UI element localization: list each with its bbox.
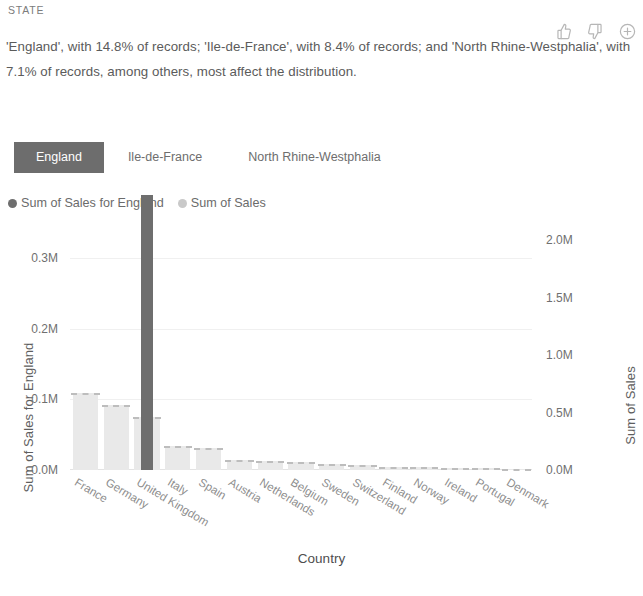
y-tick-right: 0.0M: [546, 463, 573, 477]
x-tick-slot: Austria: [224, 472, 255, 542]
bar-sum-of-sales[interactable]: [412, 467, 437, 470]
x-axis-tick-labels: FranceGermanyUnited KingdomItalySpainAus…: [70, 472, 532, 542]
tab-england[interactable]: England: [14, 142, 104, 173]
legend-swatch-back: [178, 199, 187, 208]
insight-summary-text: 'England', with 14.8% of records; 'Ile-d…: [6, 34, 634, 84]
x-tick-slot: Finland: [378, 472, 409, 542]
bar-sum-of-sales[interactable]: [73, 393, 98, 470]
y-tick-left: 0.3M: [31, 251, 58, 265]
bar-sum-of-sales[interactable]: [504, 469, 529, 470]
state-tab-list: England Ile-de-France North Rhine-Westph…: [14, 142, 403, 173]
bar-slot[interactable]: [101, 223, 132, 470]
x-tick-slot: Denmark: [501, 472, 532, 542]
bar-sum-of-sales[interactable]: [319, 464, 344, 470]
x-tick-slot: Italy: [162, 472, 193, 542]
bar-slot[interactable]: [132, 223, 163, 470]
bar-series-group: [70, 223, 532, 470]
legend-swatch-front: [8, 199, 17, 208]
bar-slot[interactable]: [193, 223, 224, 470]
legend-item-sum-of-sales[interactable]: Sum of Sales: [178, 196, 266, 210]
combo-chart: Sum of Sales for England Sum of Sales Co…: [0, 218, 643, 596]
y-axis-title-right: Sum of Sales: [623, 311, 638, 501]
bar-slot[interactable]: [224, 223, 255, 470]
x-tick-slot: Belgium: [286, 472, 317, 542]
chart-legend: Sum of Sales for England Sum of Sales: [8, 196, 266, 210]
y-tick-right: 0.5M: [546, 406, 573, 420]
bar-slot[interactable]: [470, 223, 501, 470]
x-tick-slot: Sweden: [316, 472, 347, 542]
y-axis-title-left: Sum of Sales for England: [21, 318, 36, 518]
bar-sum-of-sales-for-england[interactable]: [141, 195, 153, 470]
x-tick-slot: Germany: [101, 472, 132, 542]
y-tick-left: 0.0M: [31, 463, 58, 477]
bar-sum-of-sales[interactable]: [473, 468, 498, 470]
bar-sum-of-sales[interactable]: [104, 405, 129, 470]
bar-sum-of-sales[interactable]: [165, 446, 190, 470]
bar-slot[interactable]: [440, 223, 471, 470]
bar-slot[interactable]: [286, 223, 317, 470]
x-tick-slot: Norway: [409, 472, 440, 542]
bar-sum-of-sales[interactable]: [196, 448, 221, 470]
bar-slot[interactable]: [316, 223, 347, 470]
x-tick-slot: United Kingdom: [132, 472, 163, 542]
x-axis-title: Country: [0, 551, 643, 566]
x-tick-label: Denmark: [504, 476, 550, 510]
bar-slot[interactable]: [409, 223, 440, 470]
bar-sum-of-sales[interactable]: [258, 461, 283, 470]
x-tick-slot: Switzerland: [347, 472, 378, 542]
bar-slot[interactable]: [162, 223, 193, 470]
bar-sum-of-sales[interactable]: [442, 468, 467, 470]
bar-sum-of-sales[interactable]: [350, 465, 375, 470]
y-tick-left: 0.1M: [31, 392, 58, 406]
plot-area: 0.0M0.1M0.2M0.3M 0.0M0.5M1.0M1.5M2.0M: [70, 223, 532, 470]
bar-slot[interactable]: [255, 223, 286, 470]
bar-sum-of-sales[interactable]: [288, 462, 313, 470]
y-tick-left: 0.2M: [31, 322, 58, 336]
bar-slot[interactable]: [501, 223, 532, 470]
bar-sum-of-sales[interactable]: [381, 467, 406, 470]
legend-label-back: Sum of Sales: [191, 196, 266, 210]
tab-ile-de-france[interactable]: Ile-de-France: [106, 142, 224, 173]
x-tick-slot: France: [70, 472, 101, 542]
x-tick-slot: Portugal: [470, 472, 501, 542]
y-tick-right: 1.5M: [546, 291, 573, 305]
x-tick-label: Italy: [166, 476, 190, 497]
bar-slot[interactable]: [70, 223, 101, 470]
bar-slot[interactable]: [378, 223, 409, 470]
x-tick-slot: Spain: [193, 472, 224, 542]
page-kicker: STATE: [8, 4, 44, 16]
bar-sum-of-sales[interactable]: [227, 460, 252, 470]
bar-slot[interactable]: [347, 223, 378, 470]
x-tick-slot: Netherlands: [255, 472, 286, 542]
insight-card: STATE 'England', with 14.8% of records; …: [0, 0, 643, 596]
y-tick-right: 2.0M: [546, 233, 573, 247]
x-tick-slot: Ireland: [440, 472, 471, 542]
tab-north-rhine-westphalia[interactable]: North Rhine-Westphalia: [226, 142, 402, 173]
y-tick-right: 1.0M: [546, 348, 573, 362]
